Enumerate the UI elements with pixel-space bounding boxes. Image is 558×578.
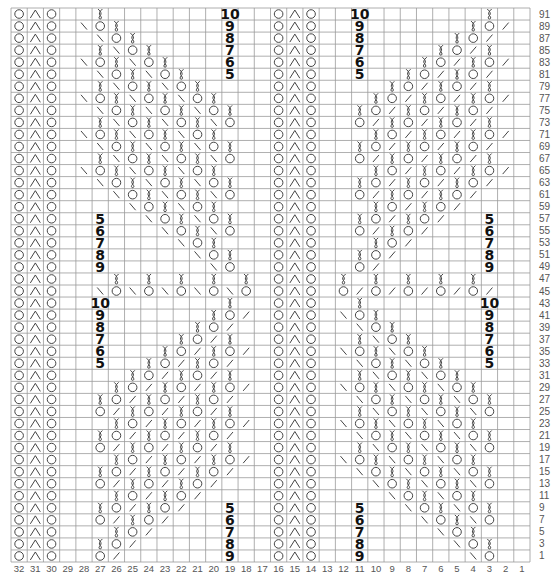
chart-row-89: 99 [15,18,509,34]
chart-row-61 [15,190,476,200]
twisted-stitch-icon [195,467,199,477]
yarn-over-icon [307,214,316,223]
yarn-over-icon [307,479,316,488]
double-decrease-icon [30,395,40,403]
twisted-stitch-icon [163,93,167,103]
repeat-number-label: 9 [225,548,235,564]
twisted-stitch-icon [487,539,491,549]
double-decrease-icon [290,359,300,367]
yarn-over-icon [96,58,105,67]
row-number: 31 [539,370,551,381]
right-decrease-icon [130,468,136,475]
row-number: 81 [539,69,551,80]
yarn-over-icon [274,455,283,464]
double-decrease-icon [290,407,300,415]
yarn-over-icon [453,455,462,464]
twisted-stitch-icon [130,69,134,79]
twisted-stitch-icon [147,431,151,441]
twisted-stitch-icon [195,394,199,404]
left-decrease-icon [195,179,201,186]
yarn-over-icon [307,94,316,103]
yarn-over-icon [339,287,348,296]
left-decrease-icon [195,251,201,258]
yarn-over-icon [274,178,283,187]
twisted-stitch-icon [130,406,134,416]
twisted-stitch-icon [179,334,183,344]
yarn-over-icon [193,239,202,248]
left-decrease-icon [97,35,103,42]
yarn-over-icon [307,491,316,500]
left-decrease-icon [422,408,428,415]
right-decrease-icon [438,215,444,222]
twisted-stitch-icon [390,431,394,441]
twisted-stitch-icon [228,298,232,308]
right-decrease-icon [454,167,460,174]
yarn-over-icon [15,407,24,416]
twisted-stitch-icon [471,129,475,139]
twisted-stitch-icon [390,226,394,236]
right-decrease-icon [178,468,184,475]
right-decrease-icon [486,35,492,42]
yarn-over-icon [485,552,494,561]
right-decrease-icon [486,107,492,114]
twisted-stitch-icon [228,250,232,260]
row-number: 73 [539,117,551,128]
left-decrease-icon [211,263,217,270]
yarn-over-icon [47,516,56,525]
chart-row-71 [15,129,509,139]
twisted-stitch-icon [114,419,118,429]
double-decrease-icon [290,492,300,500]
twisted-stitch-icon [179,370,183,380]
row-number: 41 [539,310,551,321]
twisted-stitch-icon [487,9,491,19]
right-decrease-icon [454,203,460,210]
yarn-over-icon [209,251,218,260]
left-decrease-icon [340,312,346,319]
twisted-stitch-icon [439,503,443,513]
twisted-stitch-icon [130,178,134,188]
yarn-over-icon [274,443,283,452]
yarn-over-icon [15,82,24,91]
yarn-over-icon [226,311,235,320]
left-decrease-icon [113,119,119,126]
twisted-stitch-icon [212,346,216,356]
chart-row-67 [15,154,492,164]
yarn-over-icon [47,275,56,284]
double-decrease-icon [290,275,300,283]
yarn-over-icon [145,130,154,139]
twisted-stitch-icon [195,431,199,441]
right-decrease-icon [438,179,444,186]
row-number: 61 [539,189,551,200]
twisted-stitch-icon [147,154,151,164]
column-number: 28 [79,563,90,574]
row-number: 43 [539,298,551,309]
yarn-over-icon [226,154,235,163]
right-decrease-icon [195,384,201,391]
yarn-over-icon [388,407,397,416]
yarn-over-icon [420,214,429,223]
right-decrease-icon [113,444,119,451]
yarn-over-icon [274,552,283,561]
yarn-over-icon [388,371,397,380]
twisted-stitch-icon [390,117,394,127]
yarn-over-icon [47,118,56,127]
row-number: 15 [539,466,551,477]
yarn-over-icon [469,431,478,440]
yarn-over-icon [128,491,137,500]
yarn-over-icon [453,491,462,500]
yarn-over-icon [388,335,397,344]
yarn-over-icon [145,479,154,488]
yarn-over-icon [47,214,56,223]
yarn-over-icon [47,467,56,476]
chart-row-83: 66 [15,54,509,70]
yarn-over-icon [96,94,105,103]
twisted-stitch-icon [98,45,102,55]
row-number: 1 [539,550,545,561]
double-decrease-icon [30,118,40,126]
yarn-over-icon [307,347,316,356]
yarn-over-icon [436,130,445,139]
double-decrease-icon [30,323,40,331]
yarn-over-icon [372,395,381,404]
left-decrease-icon [130,95,136,102]
double-decrease-icon [290,432,300,440]
